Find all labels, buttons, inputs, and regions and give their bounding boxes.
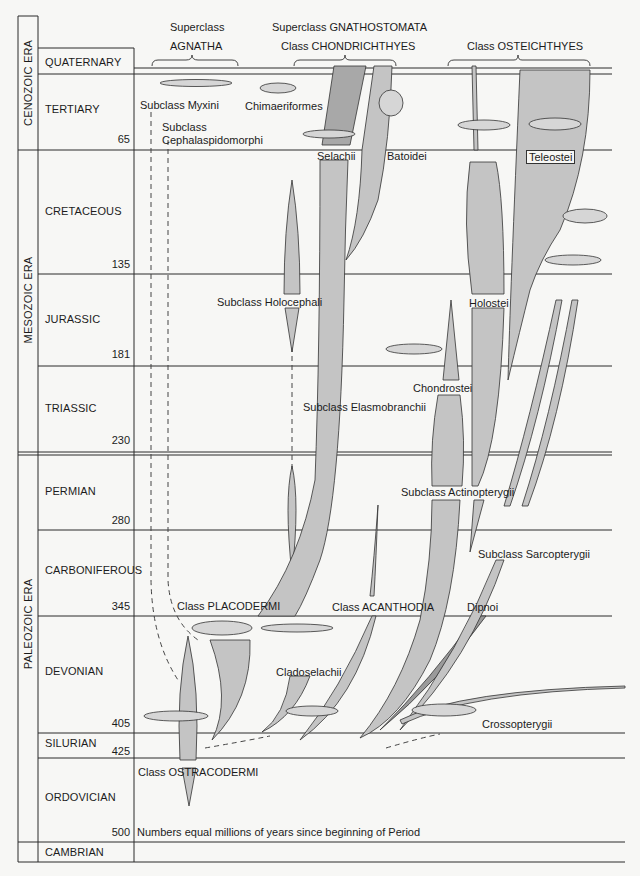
period-silurian: SILURIAN <box>45 737 97 749</box>
era-label-paleozoic: PALEOZOIC ERA <box>22 571 34 677</box>
mya-triassic: 230 <box>90 434 130 446</box>
taxon-teleostei: Teleostei <box>526 150 575 164</box>
fish-sturgeon <box>386 344 442 354</box>
mya-cretaceous: 135 <box>90 258 130 270</box>
fish-acanthodian <box>286 706 338 716</box>
period-devonian: DEVONIAN <box>45 665 103 677</box>
fish-chimaera <box>260 83 296 93</box>
taxon-placodermi: Class PLACODERMI <box>177 600 280 612</box>
taxon-sarcopterygii: Subclass Sarcopterygii <box>478 548 590 560</box>
taxon-myxini: Subclass Myxini <box>140 99 219 111</box>
header-agnatha-superclass: Superclass <box>170 21 224 33</box>
header-agnatha-name: AGNATHA <box>170 40 222 52</box>
taxon-cephalaspidomorphi-line2: Cephalaspidomorphi <box>162 134 263 146</box>
footnote: Numbers equal millions of years since be… <box>137 826 420 838</box>
fish-evolution-diagram: CENOZOIC ERA MESOZOIC ERA PALEOZOIC ERA … <box>0 0 640 876</box>
fish-myxini <box>160 80 232 87</box>
fish-shark <box>303 130 355 138</box>
mya-carboniferous: 345 <box>90 600 130 612</box>
fish-ray <box>379 90 403 116</box>
era-label-cenozoic: CENOZOIC ERA <box>22 42 34 126</box>
fish-salmon <box>529 118 581 130</box>
period-cretaceous: CRETACEOUS <box>45 205 122 217</box>
period-triassic: TRIASSIC <box>45 402 97 414</box>
mya-jurassic: 181 <box>90 348 130 360</box>
mya-devonian: 405 <box>90 717 130 729</box>
fish-placoderm <box>192 621 252 635</box>
period-carboniferous: CARBONIFEROUS <box>45 564 142 576</box>
fish-herring <box>458 120 510 130</box>
period-cambrian: CAMBRIAN <box>45 846 104 858</box>
fish-arowana <box>545 255 601 265</box>
taxon-dipnoi: Dipnoi <box>467 601 498 613</box>
header-osteichthyes: Class OSTEICHTHYES <box>467 40 583 52</box>
header-gnathostomata: Superclass GNATHOSTOMATA <box>272 21 427 33</box>
fish-crossopterygian <box>412 704 476 716</box>
taxon-holostei: Holostei <box>469 297 509 309</box>
taxon-crossopterygii: Crossopterygii <box>482 718 552 730</box>
taxon-holocephali: Subclass Holocephali <box>217 296 322 308</box>
group-brackets <box>152 55 590 66</box>
taxon-ostracodermi: Class OSTRACODERMI <box>138 766 258 778</box>
taxon-acanthodia: Class ACANTHODIA <box>332 601 434 613</box>
period-jurassic: JURASSIC <box>45 313 100 325</box>
period-ordovician: ORDOVICIAN <box>45 791 116 803</box>
taxon-batoidei: Batoidei <box>387 150 427 162</box>
taxon-chimaeriformes: Chimaeriformes <box>245 100 323 112</box>
mya-tertiary: 65 <box>90 133 130 145</box>
branch-spindles <box>179 66 625 806</box>
taxon-chondrostei: Chondrostei <box>413 382 472 394</box>
era-label-mesozoic: MESOZOIC ERA <box>22 250 34 350</box>
period-tertiary: TERTIARY <box>45 103 100 115</box>
taxon-cladoselachii: Cladoselachii <box>276 666 341 678</box>
period-quaternary: QUATERNARY <box>45 56 121 68</box>
header-chondrichthyes: Class CHONDRICHTHYES <box>281 40 415 52</box>
mya-permian: 280 <box>90 514 130 526</box>
taxon-cephalaspidomorphi-line1: Subclass <box>162 121 207 133</box>
fish-ostracoderm <box>144 711 208 721</box>
mya-silurian: 425 <box>90 745 130 757</box>
taxon-actinopterygii: Subclass Actinopterygii <box>401 486 514 498</box>
period-permian: PERMIAN <box>45 485 96 497</box>
mya-ordovician: 500 <box>90 826 130 838</box>
fish-lungfish <box>563 209 607 223</box>
taxon-selachii: Selachii <box>317 150 356 162</box>
taxon-elasmobranchii: Subclass Elasmobranchii <box>303 401 426 413</box>
fish-cladoselache <box>261 624 333 632</box>
